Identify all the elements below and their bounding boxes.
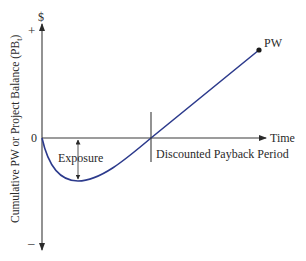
- y-axis-unit-label: $: [38, 10, 44, 24]
- pw-end-point: [256, 47, 261, 52]
- payback-label: Discounted Payback Period: [156, 147, 289, 161]
- minus-sign-label: –: [27, 235, 35, 250]
- y-axis-title-close: ): [9, 35, 22, 39]
- plus-sign-label: +: [28, 23, 35, 38]
- zero-label: 0: [31, 131, 37, 145]
- y-axis-title: Cumulative PW or Project Balance (PBt): [9, 35, 24, 223]
- pw-label: PW: [264, 36, 283, 50]
- x-axis-label: Time: [270, 131, 295, 145]
- exposure-label: Exposure: [58, 151, 103, 165]
- payback-diagram: $ + – 0 Cumulative PW or Project Balance…: [0, 0, 306, 261]
- y-axis-title-main: Cumulative PW or Project Balance (PB: [9, 41, 22, 223]
